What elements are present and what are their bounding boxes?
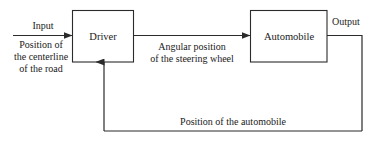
automobile-block-label: Automobile [250,31,328,42]
steering-signal-description-line-1: Angular position [158,41,226,52]
steering-signal-description-line-2: of the steering wheel [150,53,234,64]
driver-block[interactable]: Driver [72,10,134,62]
input-signal-description-line-3: of the road [19,63,62,74]
feedback-signal-label: Position of the automobile [180,116,286,127]
driver-block-label: Driver [72,31,134,42]
input-signal-label: Input [32,20,53,31]
automobile-block[interactable]: Automobile [250,10,328,62]
output-signal-line [327,36,362,132]
input-signal-description-line-1: Position of [19,39,63,50]
input-signal-description-line-2: the centerline [14,51,68,62]
output-signal-label: Output [332,16,360,27]
block-diagram: Driver Automobile Input Position of the … [0,0,380,151]
